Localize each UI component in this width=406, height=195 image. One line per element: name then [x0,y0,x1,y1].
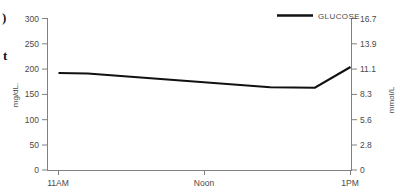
left-tick-label-0: 0 [34,165,39,175]
right-tick-label-16-7: 16.7 [360,14,377,24]
right-tick-label-5-6: 5.6 [360,115,372,125]
x-tick-label-11am: 11AM [47,178,69,188]
right-tick-label-8-3: 8.3 [360,89,372,99]
legend-label-glucose: GLUCOSE [318,12,360,21]
left-tick-label-50: 50 [30,140,40,150]
left-tick-label-200: 200 [25,64,39,74]
left-axis-title: mg/dL. [11,83,20,107]
glucose-chart: ) t 300 250 200 150 100 50 0 mg/dL. [0,0,406,195]
right-axis-title: mmol/L [387,86,396,113]
left-tick-label-250: 250 [25,39,39,49]
x-tick-label-noon: Noon [194,178,215,188]
edge-artifact-glyph-bottom: t [3,48,8,63]
edge-artifact-glyph-top: ) [2,10,6,25]
left-tick-label-150: 150 [25,89,39,99]
right-tick-label-0: 0 [360,165,365,175]
right-tick-label-11-1: 11.1 [360,64,376,74]
left-tick-label-100: 100 [25,115,39,125]
chart-background [0,0,406,195]
right-tick-label-13-9: 13.9 [360,39,377,49]
left-tick-label-300: 300 [25,14,39,24]
x-tick-label-1pm: 1PM [341,178,358,188]
right-tick-label-2-8: 2.8 [360,140,372,150]
